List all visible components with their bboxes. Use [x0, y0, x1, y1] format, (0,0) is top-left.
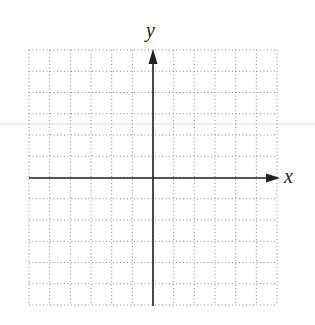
x-axis-label: x: [284, 166, 293, 186]
y-axis-arrow-icon: [149, 49, 158, 64]
x-axis-arrow-icon: [266, 174, 280, 183]
coordinate-grid: [0, 0, 315, 325]
y-axis-label: y: [146, 20, 155, 40]
